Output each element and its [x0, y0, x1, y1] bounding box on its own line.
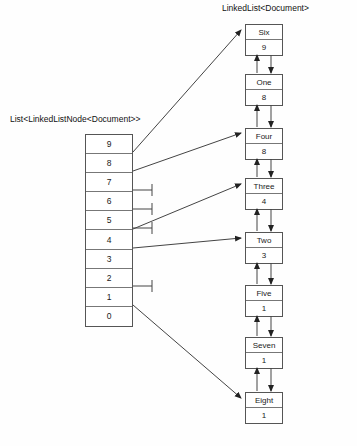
node-one-name: One — [246, 75, 282, 90]
array-cell-3[interactable]: 3 — [86, 250, 132, 269]
link-two-five — [257, 263, 271, 284]
connector-layer — [0, 0, 357, 446]
node-five[interactable]: Five 1 — [245, 285, 283, 317]
node-four[interactable]: Four 8 — [245, 128, 283, 160]
node-seven-value: 1 — [246, 353, 282, 368]
null-pointer-5 — [133, 222, 152, 234]
link-one-four — [257, 105, 271, 127]
node-eight[interactable]: Eight 1 — [245, 392, 283, 424]
node-two[interactable]: Two 3 — [245, 232, 283, 264]
array-cell-8[interactable]: 8 — [86, 154, 132, 173]
node-one[interactable]: One 8 — [245, 74, 283, 106]
null-pointer-7 — [133, 184, 152, 196]
null-pointer-6 — [133, 203, 152, 215]
pointer-1-to-eight — [133, 305, 241, 398]
array-cell-4[interactable]: 4 — [86, 230, 132, 249]
linkedlist-title: LinkedList<Document> — [222, 3, 309, 13]
index-array: 9 8 7 6 5 4 3 2 1 0 — [85, 134, 133, 327]
pointer-8-to-four — [133, 133, 241, 171]
node-eight-name: Eight — [246, 393, 282, 408]
node-seven-name: Seven — [246, 338, 282, 353]
link-seven-eight — [257, 368, 271, 391]
array-cell-0[interactable]: 0 — [86, 307, 132, 326]
node-five-name: Five — [246, 286, 282, 301]
array-cell-9[interactable]: 9 — [86, 135, 132, 154]
node-four-value: 8 — [246, 144, 282, 159]
link-five-seven — [257, 316, 271, 336]
node-three-name: Three — [246, 179, 282, 194]
node-one-value: 8 — [246, 90, 282, 105]
array-cell-7[interactable]: 7 — [86, 173, 132, 192]
node-four-name: Four — [246, 129, 282, 144]
array-cell-2[interactable]: 2 — [86, 269, 132, 288]
node-eight-value: 1 — [246, 408, 282, 423]
diagram-canvas: LinkedList<Document> List<LinkedListNode… — [0, 0, 357, 446]
node-two-name: Two — [246, 233, 282, 248]
node-six[interactable]: Six 9 — [245, 24, 283, 56]
pointer-9-to-six — [133, 30, 241, 152]
link-four-three — [257, 159, 271, 177]
node-five-value: 1 — [246, 301, 282, 316]
array-cell-1[interactable]: 1 — [86, 288, 132, 307]
node-seven[interactable]: Seven 1 — [245, 337, 283, 369]
null-pointer-2 — [133, 280, 152, 292]
array-title: List<LinkedListNode<Document>> — [10, 114, 140, 124]
array-cell-6[interactable]: 6 — [86, 192, 132, 211]
array-cell-5[interactable]: 5 — [86, 211, 132, 230]
node-three[interactable]: Three 4 — [245, 178, 283, 210]
link-three-two — [257, 209, 271, 231]
node-six-value: 9 — [246, 40, 282, 55]
pointer-4-to-three — [133, 184, 241, 229]
node-six-name: Six — [246, 25, 282, 40]
pointer-3-to-two — [133, 238, 241, 248]
node-three-value: 4 — [246, 194, 282, 209]
link-six-one — [257, 55, 271, 73]
node-two-value: 3 — [246, 248, 282, 263]
